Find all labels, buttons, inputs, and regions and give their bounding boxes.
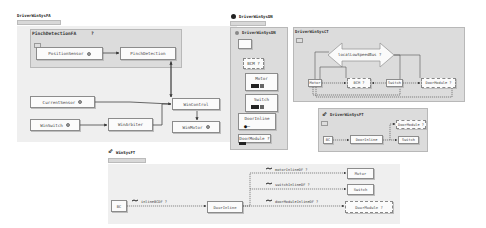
- link-icon: [266, 168, 272, 169]
- link-icon: [266, 183, 272, 184]
- link-icon: [132, 200, 138, 201]
- link-icon: [266, 200, 272, 201]
- wh-connectors: [0, 0, 486, 228]
